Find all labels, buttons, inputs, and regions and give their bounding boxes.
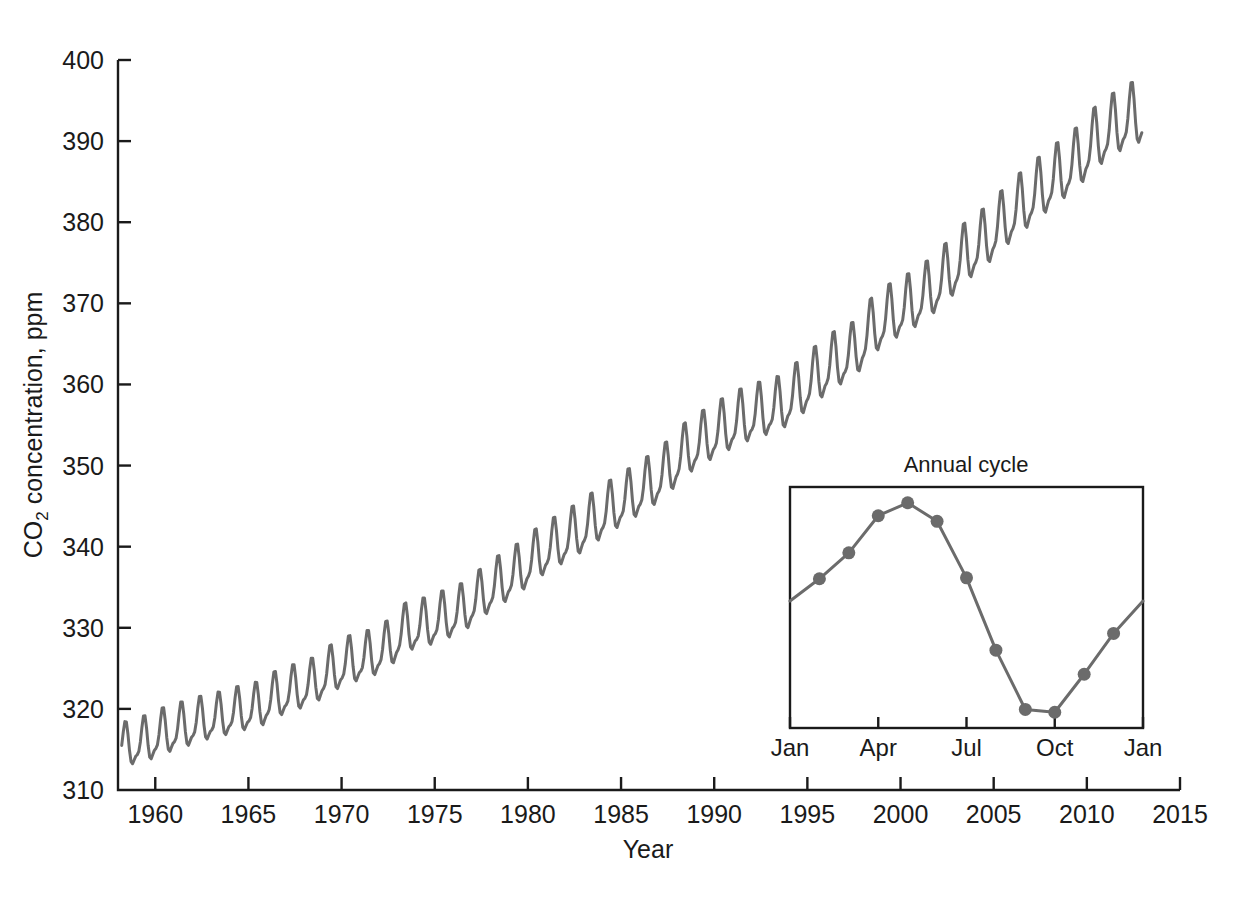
y-axis-title-subscript: 2 (33, 511, 52, 520)
y-tick-label: 340 (62, 533, 104, 561)
inset-annual-cycle: Annual cycle JanAprJulOctJan (771, 452, 1163, 761)
y-tick-label: 370 (62, 289, 104, 317)
annual-cycle-marker (1078, 668, 1091, 681)
y-axis-tick-labels: 310320330340350360370380390400 (62, 46, 104, 804)
x-tick-label: 1970 (314, 800, 370, 828)
annual-cycle-marker (1019, 703, 1032, 716)
x-tick-label: 2000 (873, 800, 929, 828)
annual-cycle-marker (901, 496, 914, 509)
x-tick-label: 2015 (1152, 800, 1208, 828)
y-tick-label: 400 (62, 46, 104, 74)
x-tick-label: 1975 (407, 800, 463, 828)
y-axis-ticks (118, 141, 131, 709)
inset-x-tick-label: Jan (771, 734, 810, 761)
y-tick-label: 390 (62, 127, 104, 155)
y-tick-label: 380 (62, 208, 104, 236)
x-tick-label: 1995 (780, 800, 836, 828)
annual-cycle-marker (1107, 627, 1120, 640)
inset-title: Annual cycle (904, 452, 1029, 477)
y-tick-label: 330 (62, 614, 104, 642)
inset-x-tick-label: Oct (1036, 734, 1074, 761)
co2-chart-svg: 310320330340350360370380390400 196019651… (0, 0, 1245, 899)
y-tick-label: 320 (62, 695, 104, 723)
x-axis-tick-labels: 1960196519701975198019851990199520002005… (127, 800, 1207, 828)
y-tick-label: 360 (62, 370, 104, 398)
inset-x-tick-label: Jul (951, 734, 982, 761)
inset-frame (790, 487, 1143, 728)
co2-figure: 310320330340350360370380390400 196019651… (0, 0, 1245, 899)
x-tick-label: 2005 (966, 800, 1022, 828)
y-axis-title-rest: concentration, ppm (19, 292, 47, 512)
annual-cycle-marker (842, 546, 855, 559)
svg-text:CO2 concentration, ppm: CO2 concentration, ppm (19, 292, 52, 559)
annual-cycle-marker (813, 572, 826, 585)
annual-cycle-marker (931, 515, 944, 528)
annual-cycle-marker (1048, 706, 1061, 719)
x-tick-label: 1985 (593, 800, 649, 828)
x-tick-label: 1960 (127, 800, 183, 828)
x-tick-label: 1965 (221, 800, 277, 828)
annual-cycle-marker (960, 571, 973, 584)
y-tick-label: 350 (62, 452, 104, 480)
x-tick-label: 1990 (686, 800, 742, 828)
inset-x-tick-label: Jan (1124, 734, 1163, 761)
x-tick-label: 1980 (500, 800, 556, 828)
y-axis-title-co: CO (19, 521, 47, 559)
y-tick-label: 310 (62, 776, 104, 804)
annual-cycle-marker (989, 644, 1002, 657)
x-tick-label: 2010 (1059, 800, 1115, 828)
x-axis-title: Year (623, 835, 674, 863)
x-axis-ticks (155, 777, 1087, 790)
inset-x-tick-labels: JanAprJulOctJan (771, 734, 1163, 761)
inset-x-tick-label: Apr (860, 734, 897, 761)
annual-cycle-marker (872, 509, 885, 522)
y-axis-title: CO2 concentration, ppm (19, 292, 52, 559)
